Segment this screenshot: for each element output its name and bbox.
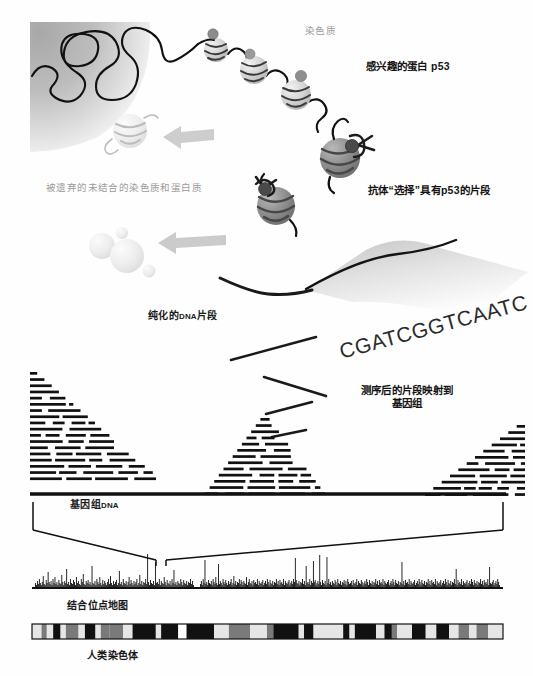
peak-bar <box>484 580 485 588</box>
sequencing-read <box>485 462 515 465</box>
peak-bar <box>388 580 389 588</box>
label-discarded-chromatin: 被遗弃的未结合的染色质和蛋白质 <box>46 182 202 194</box>
peak-bar <box>66 569 67 588</box>
label-human-chromosome: 人类染色体 <box>87 650 139 663</box>
peak-bar <box>474 580 475 588</box>
peak-bar <box>440 580 441 588</box>
sequencing-read <box>69 440 84 443</box>
sequencing-read <box>242 443 259 446</box>
sequencing-read <box>134 477 156 480</box>
peak-bar <box>190 579 191 588</box>
sequencing-read <box>30 465 64 468</box>
binding-site-peak-track <box>35 554 500 588</box>
peak-bar <box>257 579 258 588</box>
peak-bar <box>136 579 137 588</box>
sequencing-read <box>30 415 59 418</box>
sequencing-read <box>30 453 50 456</box>
sequencing-read <box>500 437 525 440</box>
sequencing-read <box>262 437 275 440</box>
peak-bar <box>61 575 62 588</box>
label-antibody-selects: 抗体“选择”具有p53的片段 <box>368 184 491 197</box>
peak-bar <box>431 580 432 588</box>
peak-bar <box>225 580 226 588</box>
chromosome-ideogram <box>32 624 503 639</box>
sequencing-read <box>301 474 312 477</box>
chromosome-band <box>66 624 79 639</box>
peak-bar <box>267 579 268 588</box>
sequencing-read <box>53 422 65 425</box>
chromosome-band <box>477 624 489 639</box>
sequencing-read <box>56 453 72 456</box>
discarded-chromatin-upper <box>105 114 214 154</box>
purified-dna-fragments <box>220 278 326 437</box>
peak-bar <box>83 574 84 588</box>
nucleosome-group-chromatin <box>198 29 311 110</box>
peak-bar <box>233 576 234 588</box>
peak-bar <box>344 580 345 588</box>
peak-bar <box>337 579 338 588</box>
peak-bar <box>375 579 376 588</box>
peak-bar <box>39 579 40 588</box>
peak-bar <box>147 554 148 588</box>
sequencing-read <box>433 487 461 490</box>
peak-bar <box>302 579 303 588</box>
discard-arrow-icon <box>158 232 226 254</box>
discarded-chromatin-lower <box>89 227 226 278</box>
peak-bar <box>231 579 232 588</box>
peak-bar <box>129 577 130 588</box>
peak-bar <box>172 579 173 588</box>
peak-bar <box>92 566 93 588</box>
figure-canvas: 染色质 感兴趣的蛋白 p53 被遗弃的未结合的染色质和蛋白质 抗体“选择”具有p… <box>0 0 533 676</box>
label-binding-site-map: 结合位点地图 <box>67 600 129 613</box>
peak-bar <box>183 580 184 588</box>
sequencing-read <box>274 449 291 452</box>
peak-bar <box>322 580 323 588</box>
peak-bar <box>174 570 175 588</box>
peak-bar <box>155 562 156 588</box>
sequencing-read <box>250 480 274 483</box>
label-purified-suffix: 片段 <box>197 310 218 321</box>
chromosome-band <box>133 624 156 639</box>
sequencing-read <box>467 462 479 465</box>
sequencing-read <box>510 475 525 478</box>
sequencing-read <box>30 434 41 437</box>
peak-bar <box>119 571 120 588</box>
chromosome-band <box>397 624 412 639</box>
peak-bar <box>289 580 290 588</box>
sequencing-read <box>464 487 476 490</box>
sequencing-read <box>256 424 272 427</box>
sequencing-read <box>481 481 498 484</box>
sequencing-read <box>288 468 307 471</box>
peak-bar <box>205 560 206 588</box>
peak-bar <box>81 579 82 588</box>
sequencing-read <box>30 391 59 394</box>
peak-bar <box>159 579 160 588</box>
sequencing-read <box>30 459 52 462</box>
peak-bar <box>445 579 446 588</box>
label-genomic-dna-token: DNA <box>101 501 119 510</box>
sequencing-read <box>237 449 266 452</box>
peak-bar <box>167 580 168 588</box>
peak-bar <box>239 579 240 588</box>
chromosome-band <box>355 624 376 639</box>
p53-protein-dot <box>208 29 218 39</box>
chromosome-band <box>488 624 503 639</box>
chromosome-band <box>96 624 101 639</box>
chromosome-band <box>267 624 273 639</box>
sequencing-read <box>30 428 62 431</box>
peak-bar <box>73 580 74 588</box>
peak-bar <box>223 579 224 588</box>
peak-bar <box>489 567 490 588</box>
sequencing-read <box>30 477 62 480</box>
sequencing-read <box>450 475 475 478</box>
sequencing-read <box>210 486 244 489</box>
nucleosome <box>198 29 228 62</box>
peak-bar <box>213 579 214 588</box>
peak-bar <box>58 580 59 588</box>
sequencing-read <box>30 446 48 449</box>
sequencing-read <box>107 453 129 456</box>
chromosome-band <box>299 624 304 639</box>
sequencing-read <box>118 471 137 474</box>
sequencing-read <box>48 409 80 412</box>
sequencing-read <box>69 465 92 468</box>
